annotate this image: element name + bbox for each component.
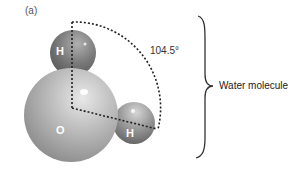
- atom-label-hydrogen-right: H: [126, 127, 134, 139]
- oxygen-atom: [24, 68, 118, 162]
- panel-label: (a): [25, 5, 37, 16]
- highlight: [131, 109, 135, 113]
- atom-label-oxygen: O: [56, 124, 65, 136]
- atom-label-hydrogen-top: H: [56, 45, 64, 57]
- hydrogen-atom-right: [113, 102, 155, 144]
- highlight: [80, 89, 88, 95]
- water-molecule-label: Water molecule: [219, 80, 288, 91]
- water-molecule-figure: (a) 104.5° Water molecule H O H: [0, 0, 304, 172]
- highlight: [84, 43, 87, 46]
- bond-angle-label: 104.5°: [150, 45, 179, 56]
- curly-brace: [196, 16, 213, 158]
